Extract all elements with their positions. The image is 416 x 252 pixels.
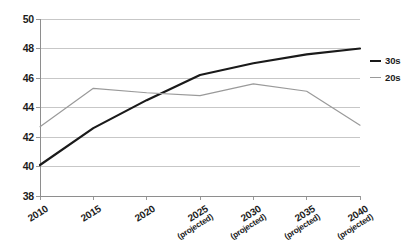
legend-swatch-30s <box>370 60 381 62</box>
y-axis-label-38: 38 <box>10 191 34 202</box>
y-axis-label-46: 46 <box>10 73 34 84</box>
legend-item-20s[interactable]: 20s <box>370 69 416 86</box>
y-axis-label-48: 48 <box>10 43 34 54</box>
series-line-20s <box>40 84 360 127</box>
legend-item-30s[interactable]: 30s <box>370 52 416 69</box>
y-axis-label-44: 44 <box>10 102 34 113</box>
y-axis-label-40: 40 <box>10 161 34 172</box>
y-axis-label-50: 50 <box>10 14 34 25</box>
series-lines <box>40 49 360 166</box>
series-line-30s <box>40 49 360 166</box>
gridlines <box>40 19 360 196</box>
legend-label-30s: 30s <box>385 55 401 66</box>
legend-label-20s: 20s <box>385 72 401 83</box>
y-axis-label-42: 42 <box>10 132 34 143</box>
chart-legend: 30s 20s <box>370 52 416 86</box>
x-axis-ticks <box>36 19 360 200</box>
legend-swatch-20s <box>370 77 381 78</box>
line-chart: 50484644424038 2010201520202025(projecte… <box>0 0 416 252</box>
